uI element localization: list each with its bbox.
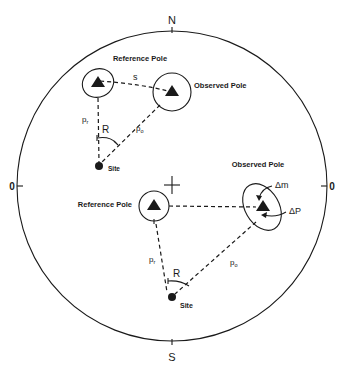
upper-rotation-arc xyxy=(97,138,116,143)
upper-observed-pole-triangle-icon xyxy=(165,85,179,96)
east-label: 0 xyxy=(329,181,335,192)
upper-po-label: po xyxy=(136,124,144,134)
delta-p-arrowhead-icon xyxy=(261,212,267,218)
lower-po-line xyxy=(175,222,256,294)
lower-site-dot xyxy=(168,293,176,301)
lower-reference-pole-label: Reference Pole xyxy=(78,200,132,209)
delta-p-label: ΔP xyxy=(289,206,301,216)
lower-observed-pole-triangle-icon xyxy=(256,200,270,211)
upper-pr-label: pr xyxy=(82,115,88,125)
north-label: N xyxy=(168,14,176,26)
upper-po-line xyxy=(101,105,160,163)
south-label: S xyxy=(168,351,175,363)
delta-m-label: Δm xyxy=(275,180,289,190)
upper-rotation-arc-tick xyxy=(114,141,118,145)
upper-observed-pole-label: Observed Pole xyxy=(194,81,247,90)
lower-example: Observed Pole Reference Pole Δm ΔP pr po… xyxy=(78,160,301,309)
pole-comparison-diagram: N S 0 0 Reference Pole Observed Pole s p… xyxy=(0,0,344,371)
upper-s-label: s xyxy=(133,72,138,82)
lower-observed-pole-label: Observed Pole xyxy=(232,160,285,169)
west-label: 0 xyxy=(9,181,15,192)
delta-p-arrow xyxy=(264,212,286,216)
upper-rotation-label: R xyxy=(102,124,109,135)
upper-pr-line xyxy=(98,98,99,163)
lower-pr-line xyxy=(156,224,167,292)
lower-site-label: Site xyxy=(180,302,193,309)
lower-po-label: po xyxy=(230,258,238,268)
lower-rotation-arc xyxy=(168,281,189,286)
lower-pr-label: pr xyxy=(149,255,155,265)
upper-site-label: Site xyxy=(108,165,120,172)
upper-site-dot xyxy=(95,162,103,170)
delta-m-arrowhead-icon xyxy=(256,195,262,201)
lower-reference-pole-triangle-icon xyxy=(147,199,161,210)
center-cross-icon xyxy=(164,176,180,194)
upper-angular-distance-s-line xyxy=(100,81,168,91)
lower-rotation-label: R xyxy=(173,268,180,279)
upper-example: Reference Pole Observed Pole s pr po R S… xyxy=(78,54,247,172)
upper-reference-pole-label: Reference Pole xyxy=(113,54,167,63)
